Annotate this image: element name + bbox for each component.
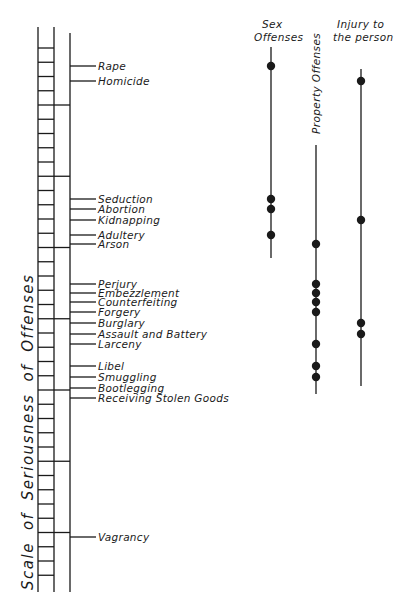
ladder-scale: [38, 27, 70, 592]
data-dot: [357, 330, 365, 338]
offense-item: Receiving Stolen Goods: [70, 392, 229, 404]
offense-label: Larceny: [98, 338, 142, 350]
header-property: Property Offenses: [310, 33, 322, 134]
header-injury-line1: Injury to: [337, 18, 384, 30]
data-dot: [312, 340, 320, 348]
offense-label: Rape: [98, 60, 126, 72]
data-dot: [357, 77, 365, 85]
column-sex: [267, 47, 275, 258]
data-dot: [312, 362, 320, 370]
data-dot: [312, 373, 320, 381]
offense-label: Homicide: [98, 75, 150, 87]
header-sex-line1: Sex: [262, 18, 283, 30]
offense-label: Arson: [97, 238, 130, 250]
column-injury: [357, 69, 365, 386]
offense-item: Arson: [70, 238, 130, 250]
header-injury-line2: the person: [333, 31, 394, 43]
seriousness-scale-diagram: Scale of Seriousness of Offenses RapeHom…: [0, 0, 419, 611]
data-dot: [357, 216, 365, 224]
offense-label: Vagrancy: [98, 531, 150, 543]
data-dot: [267, 231, 275, 239]
data-dot: [312, 308, 320, 316]
axis-title: Scale of Seriousness of Offenses: [19, 274, 37, 590]
data-dot: [312, 298, 320, 306]
data-dot: [312, 280, 320, 288]
data-dot: [312, 289, 320, 297]
offense-item: Vagrancy: [70, 531, 150, 543]
offense-label: Kidnapping: [98, 214, 160, 226]
data-dot: [267, 205, 275, 213]
data-dot: [267, 195, 275, 203]
offense-labels: RapeHomicideSeductionAbortionKidnappingA…: [70, 60, 229, 543]
column-property: [312, 145, 320, 394]
offense-item: Larceny: [70, 338, 142, 350]
offense-item: Homicide: [70, 75, 150, 87]
data-dot: [357, 319, 365, 327]
data-dot: [267, 62, 275, 70]
offense-item: Kidnapping: [70, 214, 160, 226]
offense-item: Rape: [70, 60, 126, 72]
header-sex-line2: Offenses: [254, 31, 304, 43]
offense-label: Receiving Stolen Goods: [98, 392, 229, 404]
data-dot: [312, 240, 320, 248]
column-headers: Sex Offenses Property Offenses Injury to…: [254, 18, 394, 134]
